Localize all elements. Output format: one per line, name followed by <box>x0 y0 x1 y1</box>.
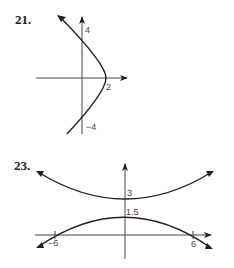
arrowhead-upper-left <box>36 171 44 177</box>
label-vertex-3: 3 <box>127 188 132 198</box>
arrowhead-upper-right <box>206 171 214 177</box>
label-x-2: 2 <box>106 82 111 92</box>
arrowhead-lower-left <box>36 242 44 248</box>
label-x-neg6: −6 <box>48 238 58 248</box>
label-y-4: 4 <box>85 25 90 35</box>
label-x-6: 6 <box>191 239 196 249</box>
graphs-canvas: 4 2 −4 3 1.5 −6 6 <box>0 0 234 268</box>
label-vertex-1-5: 1.5 <box>126 207 139 217</box>
graph-23: 3 1.5 −6 6 <box>35 164 214 259</box>
label-y-neg4: −4 <box>86 122 96 132</box>
graph-21: 4 2 −4 <box>36 15 127 134</box>
parabola-curve-21 <box>60 17 106 134</box>
